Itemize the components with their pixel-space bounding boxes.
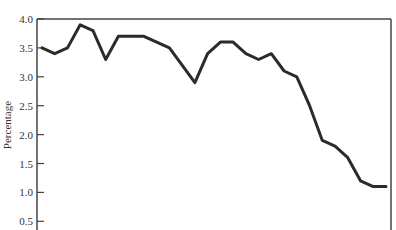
data-line xyxy=(42,25,386,187)
y-tick-label: 3.0 xyxy=(19,71,33,83)
y-axis-label: Percentage xyxy=(1,101,13,149)
y-tick-label: 4.0 xyxy=(19,13,33,25)
plot-frame xyxy=(37,19,391,230)
y-tick-label: 0.5 xyxy=(19,215,33,227)
y-tick-label: 1.0 xyxy=(19,186,33,198)
y-tick-label: 3.5 xyxy=(19,42,33,54)
line-chart: 4.03.53.02.52.01.51.00.5 Percentage xyxy=(0,0,396,230)
y-axis-ticks: 4.03.53.02.52.01.51.00.5 xyxy=(19,13,44,227)
y-tick-label: 2.0 xyxy=(19,129,33,141)
y-tick-label: 1.5 xyxy=(19,158,33,170)
y-tick-label: 2.5 xyxy=(19,100,33,112)
